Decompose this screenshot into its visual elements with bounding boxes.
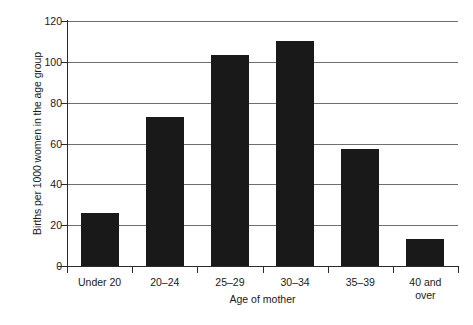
y-axis-tick-label: 20 [28, 220, 62, 230]
x-axis-tick-mark [197, 266, 198, 273]
gridline [67, 62, 458, 63]
x-axis-tick-mark [328, 266, 329, 273]
gridline [67, 225, 458, 226]
y-axis-tick-label: 120 [28, 16, 62, 26]
y-axis-tick-mark [61, 225, 68, 226]
y-axis-tick-label: 80 [28, 98, 62, 108]
gridline [67, 21, 458, 22]
y-axis-tick-label: 0 [28, 261, 62, 271]
y-axis-tick-mark [61, 21, 68, 22]
gridline [67, 184, 458, 185]
x-axis-tick-mark [132, 266, 133, 273]
y-axis-tick-label: 60 [28, 139, 62, 149]
bar[interactable] [81, 213, 119, 266]
y-axis-tick-label: 100 [28, 57, 62, 67]
x-axis-tick-mark [263, 266, 264, 273]
x-axis-title: Age of mother [67, 293, 458, 306]
x-axis-tick-label: 20–24 [132, 276, 197, 289]
bar-chart: Births per 1000 women in the age group 0… [0, 0, 473, 325]
plot-area [67, 21, 458, 266]
bar[interactable] [146, 117, 184, 266]
y-axis-tick-mark [61, 62, 68, 63]
x-axis-tick-label: Under 20 [67, 276, 132, 289]
bar[interactable] [341, 149, 379, 266]
x-axis-tick-label: 25–29 [197, 276, 262, 289]
y-axis-tick-label: 40 [28, 179, 62, 189]
x-axis-tick-mark [67, 266, 68, 273]
gridline [67, 103, 458, 104]
y-axis-tick-mark [61, 103, 68, 104]
x-axis-tick-label: 35–39 [328, 276, 393, 289]
y-axis-tick-mark [61, 144, 68, 145]
y-axis-tick-mark [61, 184, 68, 185]
x-axis-tick-mark [393, 266, 394, 273]
bar[interactable] [276, 41, 314, 266]
x-axis-tick-label: 30–34 [263, 276, 328, 289]
y-axis-tick-labels: 020406080100120 [28, 0, 62, 325]
gridline [67, 144, 458, 145]
x-axis-tick-mark [458, 266, 459, 273]
x-axis-line [58, 266, 458, 267]
bar[interactable] [211, 55, 249, 266]
bar[interactable] [406, 239, 444, 266]
